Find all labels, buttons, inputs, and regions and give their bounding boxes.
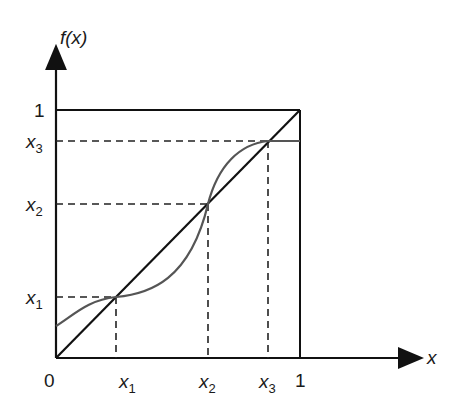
y-tick-x3: x3 (25, 131, 43, 156)
x-axis-label: x (426, 347, 438, 368)
x-tick-x3: x3 (258, 371, 276, 396)
y-tick-x2: x2 (25, 194, 43, 219)
identity-line (56, 110, 300, 358)
y-tick-x1: x1 (25, 287, 43, 312)
fixed-point-diagram: f(x) x 0 1 1 x3 x2 x1 x1 x2 x3 (0, 0, 464, 409)
y-axis-label: f(x) (60, 27, 87, 48)
unit-label-x: 1 (295, 370, 306, 391)
origin-label: 0 (44, 370, 55, 391)
unit-label-y: 1 (34, 100, 45, 121)
x-tick-x1: x1 (118, 371, 136, 396)
x-tick-x2: x2 (198, 371, 216, 396)
